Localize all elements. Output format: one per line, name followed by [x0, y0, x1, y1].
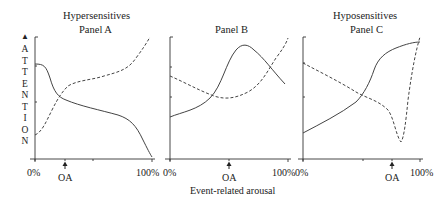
panel-c-oa-label: OA	[385, 173, 399, 183]
panel-c-x-start: 0%	[295, 168, 308, 178]
panels-canvas	[0, 0, 447, 200]
panel-b-axes	[165, 37, 291, 162]
oa-arrow-icons	[63, 162, 395, 170]
panel-c-x-end: 100%	[410, 168, 433, 178]
panel-c-solid-curve	[303, 42, 420, 133]
panel-c-axes	[298, 37, 423, 162]
panel-a-x-start: 0%	[27, 168, 40, 178]
panel-c-dashed-curve	[303, 37, 420, 142]
panel-b-x-start: 0%	[163, 168, 176, 178]
panel-b-x-end: 100%	[272, 168, 295, 178]
panel-a-axes	[30, 37, 155, 162]
panel-b-oa-label: OA	[222, 173, 236, 183]
panel-a-oa-label: OA	[58, 173, 72, 183]
x-axis-label: Event-related arousal	[190, 186, 275, 196]
panel-b-solid-curve	[170, 45, 285, 117]
panel-b-dashed-curve	[170, 38, 288, 98]
panel-a-x-end: 100%	[136, 168, 159, 178]
panel-a-solid-curve	[35, 64, 152, 157]
